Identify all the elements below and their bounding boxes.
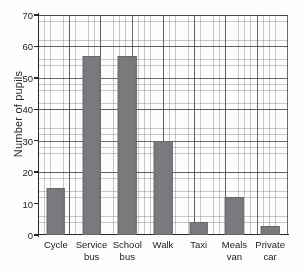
x-axis-label-line1: School <box>113 239 142 250</box>
x-axis-label-line1: Cycle <box>44 239 68 250</box>
bar <box>189 222 208 235</box>
bar-slot <box>74 15 110 235</box>
bar-slot <box>181 15 217 235</box>
x-axis-labels: CycleServicebusSchoolbusWalkTaxiMealsvan… <box>38 239 288 271</box>
bar <box>118 56 137 235</box>
x-axis-label-line2: bus <box>105 251 149 263</box>
x-axis-label-line1: Taxi <box>190 239 207 250</box>
bar <box>47 188 66 235</box>
y-tick-label: 70 <box>22 10 33 21</box>
x-axis-label-line2: car <box>248 251 292 263</box>
bar <box>82 56 101 235</box>
bar-slot <box>217 15 253 235</box>
bar-series <box>38 15 288 235</box>
bar <box>225 197 244 235</box>
y-tick-label: 10 <box>22 199 33 210</box>
bar-slot <box>38 15 74 235</box>
x-axis-label: Privatecar <box>248 239 292 262</box>
x-axis-label-line1: Meals <box>222 239 247 250</box>
y-tick-label-wrap: 0 <box>38 235 39 236</box>
y-tick-label: 20 <box>22 167 33 178</box>
x-axis-label-line1: Private <box>255 239 285 250</box>
y-tick-label: 60 <box>22 41 33 52</box>
y-tick-label: 50 <box>22 73 33 84</box>
bar <box>154 141 173 235</box>
x-axis-label-line1: Walk <box>153 239 174 250</box>
x-axis-label-line1: Service <box>76 239 108 250</box>
y-tick-label: 30 <box>22 136 33 147</box>
y-tick-label: 40 <box>22 104 33 115</box>
bar-slot <box>109 15 145 235</box>
bar-slot <box>252 15 288 235</box>
bar-slot <box>145 15 181 235</box>
bar-chart: Number of pupils 010203040506070 CycleSe… <box>0 0 301 271</box>
bar <box>261 226 280 235</box>
y-tick-label: 0 <box>28 230 33 241</box>
